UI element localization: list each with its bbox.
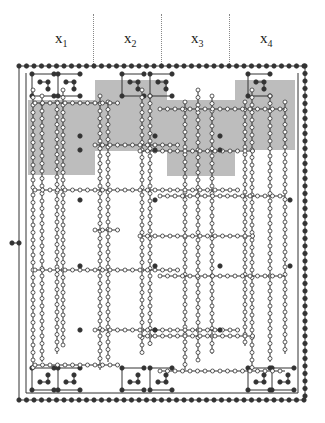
open-node	[31, 261, 35, 265]
open-node	[63, 363, 67, 367]
open-node	[148, 109, 152, 113]
open-node	[98, 214, 102, 218]
open-node	[168, 268, 172, 272]
open-node	[283, 265, 287, 269]
open-node	[48, 188, 52, 192]
open-node	[55, 325, 59, 329]
open-node	[191, 328, 195, 332]
open-node	[268, 199, 272, 203]
open-node	[203, 274, 207, 278]
open-node	[250, 321, 254, 325]
open-node	[196, 283, 200, 287]
open-node	[98, 289, 102, 293]
open-node	[148, 259, 152, 263]
open-node	[33, 101, 37, 105]
open-node	[140, 351, 144, 355]
open-node	[206, 234, 210, 238]
open-node	[61, 118, 65, 122]
filled-node	[164, 373, 168, 377]
open-node	[108, 328, 112, 332]
open-node	[106, 340, 110, 344]
open-node	[98, 334, 102, 338]
filled-node	[46, 373, 50, 377]
filled-node	[286, 373, 290, 377]
open-node	[250, 96, 254, 100]
open-node	[283, 340, 287, 344]
filled-node	[167, 398, 171, 402]
open-node	[268, 117, 272, 121]
open-node	[140, 298, 144, 302]
open-node	[33, 268, 37, 272]
open-node	[183, 123, 187, 127]
filled-node	[78, 148, 82, 152]
open-node	[55, 250, 59, 254]
open-node	[61, 343, 65, 347]
open-node	[196, 369, 200, 373]
open-node	[173, 194, 177, 198]
open-node	[210, 124, 214, 128]
open-node	[250, 163, 254, 167]
open-node	[138, 334, 142, 338]
open-node	[148, 244, 152, 248]
open-node	[106, 108, 110, 112]
open-node	[61, 216, 65, 220]
open-node	[196, 351, 200, 355]
open-node	[256, 369, 260, 373]
filled-node	[142, 388, 146, 392]
filled-node	[17, 241, 21, 245]
filled-node	[303, 281, 307, 285]
open-node	[243, 243, 247, 247]
open-node	[210, 282, 214, 286]
open-node	[181, 274, 185, 278]
open-node	[140, 253, 144, 257]
filled-node	[56, 94, 60, 98]
open-node	[106, 168, 110, 172]
open-node	[98, 349, 102, 353]
open-node	[55, 235, 59, 239]
open-node	[71, 268, 75, 272]
open-node	[40, 289, 44, 293]
open-node	[196, 88, 200, 92]
open-node	[55, 130, 59, 134]
open-node	[188, 369, 192, 373]
open-node	[146, 268, 150, 272]
open-node	[55, 183, 59, 187]
open-node	[71, 101, 75, 105]
open-node	[268, 334, 272, 338]
open-node	[153, 268, 157, 272]
open-node	[183, 160, 187, 164]
open-node	[140, 126, 144, 130]
open-node	[168, 149, 172, 153]
open-node	[140, 223, 144, 227]
open-node	[148, 169, 152, 173]
open-node	[138, 143, 142, 147]
open-node	[198, 149, 202, 153]
open-node	[183, 188, 187, 192]
open-node	[210, 222, 214, 226]
filled-node	[278, 380, 282, 384]
open-node	[55, 295, 59, 299]
open-node	[268, 237, 272, 241]
filled-node	[303, 86, 307, 90]
open-node	[210, 132, 214, 136]
filled-node	[64, 380, 68, 384]
open-node	[140, 193, 144, 197]
open-node	[203, 194, 207, 198]
open-node	[140, 238, 144, 242]
filled-node	[303, 236, 307, 240]
open-node	[268, 259, 272, 263]
open-node	[228, 334, 232, 338]
open-node	[140, 103, 144, 107]
filled-node	[137, 64, 141, 68]
filled-node	[114, 64, 118, 68]
filled-node	[279, 398, 283, 402]
open-node	[140, 313, 144, 317]
open-node	[140, 343, 144, 347]
open-node	[55, 115, 59, 119]
filled-node	[148, 366, 152, 370]
open-node	[146, 188, 150, 192]
open-node	[241, 194, 245, 198]
open-node	[56, 363, 60, 367]
open-node	[196, 274, 200, 278]
open-node	[283, 183, 287, 187]
